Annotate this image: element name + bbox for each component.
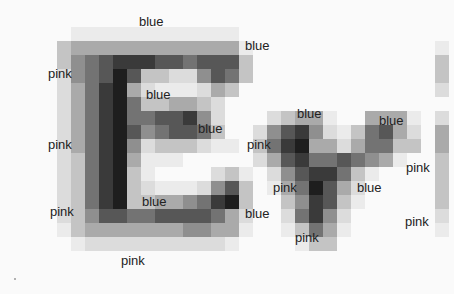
- pixel-cell: [155, 209, 169, 223]
- pixel-cell: [113, 153, 127, 167]
- pixel-cell: [169, 55, 183, 69]
- pixel-cell: [99, 195, 113, 209]
- pixel-cell: [57, 223, 71, 237]
- pixel-cell: [169, 153, 183, 167]
- pixel-cell: [57, 153, 71, 167]
- pixel-cell: [239, 181, 253, 195]
- pixel-cell: [155, 153, 169, 167]
- pixel-cell: [267, 153, 281, 167]
- pixel-cell: [113, 55, 127, 69]
- pixel-cell: [113, 139, 127, 153]
- pixel-cell: [225, 223, 239, 237]
- pixel-cell: [155, 139, 169, 153]
- pixel-cell: [435, 69, 449, 83]
- pixel-cell: [197, 195, 211, 209]
- pixel-cell: [337, 167, 351, 181]
- pixel-cell: [183, 55, 197, 69]
- pixel-cell: [323, 139, 337, 153]
- pixel-cell: [169, 139, 183, 153]
- pixel-cell: [141, 55, 155, 69]
- pixel-cell: [169, 209, 183, 223]
- pixel-cell: [113, 209, 127, 223]
- pixel-cell: [267, 111, 281, 125]
- pixel-cell: [155, 41, 169, 55]
- pixel-cell: [211, 139, 225, 153]
- pixel-cell: [197, 97, 211, 111]
- pixel-cell: [281, 139, 295, 153]
- pixel-cell: [211, 69, 225, 83]
- pixel-cell: [141, 27, 155, 41]
- pixel-cell: [57, 167, 71, 181]
- pixel-cell: [407, 139, 421, 153]
- pixel-cell: [435, 55, 449, 69]
- pixel-cell: [351, 153, 365, 167]
- pixel-cell: [71, 69, 85, 83]
- pixel-cell: [113, 69, 127, 83]
- pixel-cell: [211, 27, 225, 41]
- pixel-cell: [309, 139, 323, 153]
- pixel-cell: [141, 125, 155, 139]
- pixel-cell: [99, 139, 113, 153]
- pixel-cell: [295, 209, 309, 223]
- pixel-cell: [295, 125, 309, 139]
- pixel-cell: [435, 139, 449, 153]
- pixel-cell: [197, 55, 211, 69]
- pixel-cell: [211, 181, 225, 195]
- pixel-cell: [99, 153, 113, 167]
- pixel-cell: [141, 237, 155, 251]
- pixel-cell: [197, 139, 211, 153]
- pixel-cell: [435, 111, 449, 125]
- pixel-cell: [71, 139, 85, 153]
- pixel-cell: [379, 153, 393, 167]
- pixel-cell: [71, 125, 85, 139]
- pixel-cell: [211, 55, 225, 69]
- pixel-cell: [113, 125, 127, 139]
- pixel-cell: [337, 181, 351, 195]
- color-word-label: pink: [273, 181, 297, 195]
- pixel-cell: [71, 41, 85, 55]
- pixel-cell: [71, 237, 85, 251]
- pixel-cell: [211, 41, 225, 55]
- pixel-cell: [169, 69, 183, 83]
- pixel-cell: [141, 223, 155, 237]
- pixel-cell: [169, 223, 183, 237]
- pixel-cell: [113, 83, 127, 97]
- pixel-cell: [141, 139, 155, 153]
- pixel-cell: [113, 195, 127, 209]
- pixel-cell: [169, 181, 183, 195]
- pixel-cell: [323, 181, 337, 195]
- pixel-cell: [169, 125, 183, 139]
- pixel-cell: [155, 125, 169, 139]
- pixel-cell: [85, 181, 99, 195]
- pixel-cell: [113, 41, 127, 55]
- pixel-cell: [155, 111, 169, 125]
- pixel-cell: [337, 195, 351, 209]
- pixel-cell: [71, 55, 85, 69]
- pixel-cell: [309, 125, 323, 139]
- pixel-cell: [99, 237, 113, 251]
- pixel-cell: [281, 209, 295, 223]
- pixel-cell: [337, 153, 351, 167]
- pixel-cell: [85, 41, 99, 55]
- pixel-cell: [71, 167, 85, 181]
- pixel-cell: [113, 27, 127, 41]
- color-word-label: blue: [146, 88, 171, 102]
- pixel-cell: [113, 223, 127, 237]
- pixel-cell: [169, 41, 183, 55]
- pixel-cell: [127, 153, 141, 167]
- pixel-cell: [85, 55, 99, 69]
- pixel-cell: [183, 139, 197, 153]
- pixel-cell: [253, 153, 267, 167]
- color-word-label: pink: [48, 138, 72, 152]
- pixel-cell: [57, 181, 71, 195]
- pixel-cell: [85, 153, 99, 167]
- pixel-cell: [435, 125, 449, 139]
- pixel-cell: [295, 153, 309, 167]
- pixel-cell: [99, 167, 113, 181]
- pixel-cell: [57, 41, 71, 55]
- pixel-cell: [225, 27, 239, 41]
- color-word-label: blue: [379, 114, 404, 128]
- pixel-cell: [155, 69, 169, 83]
- pixel-cell: [183, 41, 197, 55]
- pixel-cell: [183, 209, 197, 223]
